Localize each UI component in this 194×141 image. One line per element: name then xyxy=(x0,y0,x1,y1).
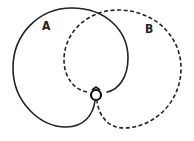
pattern-b-label: B xyxy=(145,22,153,36)
pattern-a-label: A xyxy=(42,19,51,33)
polar-pattern-diagram: A B xyxy=(0,0,194,141)
pattern-a-curve xyxy=(13,8,128,127)
microphone-icon xyxy=(91,87,101,100)
pattern-b-curve xyxy=(64,10,181,128)
